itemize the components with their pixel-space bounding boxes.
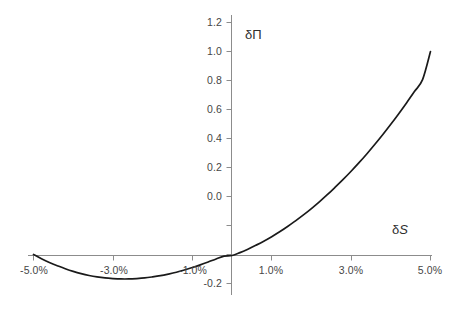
y-tick-label: -0.2 <box>185 277 222 289</box>
y-tick-label: 0.6 <box>188 103 222 115</box>
y-tick-label: 0.8 <box>188 74 222 86</box>
x-tick-label: -5.0% <box>7 264 61 276</box>
y-tick-label: 1.0 <box>188 45 222 57</box>
x-tick-label: -3.0% <box>87 264 141 276</box>
x-axis-title: δS <box>392 222 408 237</box>
y-axis-title: δΠ <box>245 27 262 42</box>
y-axis-tick-marks <box>227 23 232 284</box>
y-tick-label: 0.0 <box>188 190 222 202</box>
x-axis-title-symbol: S <box>399 222 408 237</box>
y-tick-label: 0.4 <box>188 132 222 144</box>
x-tick-label: 5.0% <box>406 264 454 276</box>
y-tick-label: 0.2 <box>188 161 222 173</box>
x-tick-label: 3.0% <box>327 264 375 276</box>
chart-figure: 1.2 1.0 0.8 0.6 0.4 0.2 0.0 -0.2 -5.0% -… <box>0 0 458 313</box>
chart-plot-area <box>0 0 458 313</box>
x-tick-label: -1.0% <box>166 264 220 276</box>
y-tick-label: 1.2 <box>188 16 222 28</box>
x-tick-label: 1.0% <box>247 264 295 276</box>
y-axis-title-symbol: Π <box>252 27 261 42</box>
